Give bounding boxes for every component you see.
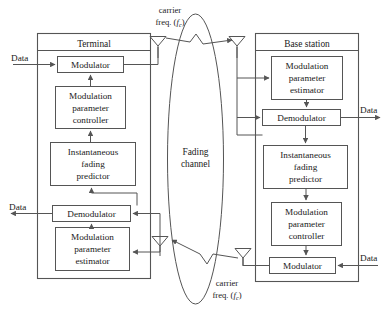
block-diagram: Terminal Modulator Modulation parameter … [0, 0, 391, 318]
base-station-tx-antenna-icon [235, 249, 251, 267]
terminal-mod-param-controller-line1: Modulation [69, 91, 112, 101]
terminal-modulator-label: Modulator [71, 60, 110, 70]
base-station-mod-param-controller-line2: parameter [288, 219, 325, 229]
carrier-freq-label-top: carrier freq. (fc) [155, 5, 184, 28]
terminal-mod-param-estimator-line3: estimator [75, 256, 109, 266]
base-station-modulator-label: Modulator [283, 261, 322, 271]
uplink-zigzag-arrow [166, 34, 232, 44]
carrier-freq-bottom-line2: freq. (fc) [212, 290, 241, 301]
uplink-radio-path [166, 34, 232, 44]
terminal-panel: Terminal Modulator Modulation parameter … [38, 34, 151, 279]
base-station-mod-param-estimator-line1: Modulation [286, 61, 329, 71]
base-station-data-out-label: Data [360, 105, 377, 115]
terminal-fading-predictor-line2: fading [81, 159, 105, 169]
fading-channel-line1: Fading [182, 147, 208, 157]
terminal-title: Terminal [77, 39, 111, 49]
terminal-mod-param-estimator-line2: parameter [74, 244, 111, 254]
terminal-fading-predictor-line3: predictor [76, 171, 109, 181]
terminal-data-out-label: Data [9, 202, 26, 212]
terminal-mod-param-estimator-line1: Modulation [71, 232, 114, 242]
carrier-freq-top-line1: carrier [159, 5, 182, 15]
downlink-radio-path [172, 240, 238, 264]
base-station-modulator-to-antenna-path [243, 258, 270, 266]
base-station-mod-param-estimator-line3: estimator [290, 85, 324, 95]
terminal-antenna-to-estimator-path [133, 246, 160, 252]
terminal-demod-to-predictor-path [92, 188, 138, 206]
terminal-demodulator-label: Demodulator [67, 209, 115, 219]
carrier-freq-top-line2: freq. (fc) [155, 17, 184, 28]
terminal-mod-param-controller-line2: parameter [72, 103, 109, 113]
carrier-freq-bottom-prefix: freq. ( [212, 290, 233, 300]
terminal-fading-predictor-line1: Instantaneous [68, 147, 119, 157]
carrier-freq-top-prefix: freq. ( [155, 17, 176, 27]
downlink-zigzag-arrow [172, 240, 238, 264]
base-station-mod-param-estimator-line2: parameter [289, 73, 326, 83]
base-station-demodulator-label: Demodulator [277, 113, 325, 123]
terminal-data-in-label: Data [11, 53, 28, 63]
carrier-freq-bottom-suffix: ) [239, 290, 242, 300]
terminal-tx-antenna-icon [150, 37, 166, 59]
base-station-title: Base station [284, 39, 330, 49]
figure-container: Terminal Modulator Modulation parameter … [0, 0, 391, 318]
base-station-antenna-riser [237, 47, 263, 135]
carrier-freq-top-suffix: ) [182, 17, 185, 27]
base-station-data-in-label: Data [360, 253, 377, 263]
fading-channel: Fading channel [168, 14, 224, 304]
base-station-mod-param-controller-line3: controller [289, 231, 325, 241]
terminal-modulator-to-antenna-path [124, 47, 159, 65]
carrier-freq-bottom-line1: carrier [216, 278, 239, 288]
fading-channel-line2: channel [181, 159, 211, 169]
carrier-freq-label-bottom: carrier freq. (fc) [212, 278, 241, 301]
base-station-panel: Base station Modulation parameter estima… [256, 34, 359, 282]
base-station-fading-predictor-line2: fading [294, 162, 318, 172]
base-station-fading-predictor-line1: Instantaneous [280, 150, 331, 160]
base-station-fading-predictor-line3: predictor [289, 174, 322, 184]
terminal-mod-param-controller-line3: controller [73, 115, 109, 125]
base-station-mod-param-controller-line1: Modulation [285, 207, 328, 217]
